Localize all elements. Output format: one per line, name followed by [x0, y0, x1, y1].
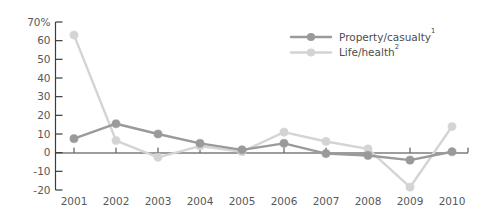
- y-tick-label: 60: [37, 34, 50, 46]
- y-tick-label: 0: [44, 146, 51, 158]
- legend-label: Life/health2: [339, 43, 399, 58]
- data-point: [280, 139, 288, 147]
- data-point: [322, 150, 330, 158]
- x-tick-label: 2003: [145, 195, 172, 207]
- data-point: [196, 139, 204, 147]
- y-tick-label: 10: [37, 128, 50, 140]
- data-point: [70, 31, 78, 39]
- y-tick-label: 40: [37, 72, 50, 84]
- data-point: [112, 120, 120, 128]
- y-tick-label: 30: [37, 90, 50, 102]
- x-tick-label: 2010: [439, 195, 466, 207]
- x-tick-label: 2002: [103, 195, 130, 207]
- data-point: [448, 122, 456, 130]
- chart-svg: 70%6050403020100-10-20 20012002200320042…: [0, 0, 492, 218]
- data-point: [280, 128, 288, 136]
- series-life-health: [70, 31, 456, 191]
- legend-marker: [307, 48, 315, 56]
- x-tick-label: 2005: [229, 195, 256, 207]
- legend-label: Property/casualty1: [339, 27, 435, 42]
- x-tick-labels: 2001200220032004200520062007200820092010: [61, 195, 466, 207]
- data-point: [406, 156, 414, 164]
- data-point: [406, 183, 414, 191]
- data-point: [70, 135, 78, 143]
- chart-legend: Property/casualty1Life/health2: [291, 27, 435, 58]
- series-line-life-health: [74, 35, 452, 187]
- y-tick-label: -20: [33, 184, 50, 196]
- data-point: [238, 146, 246, 154]
- y-tick-marks: [56, 22, 63, 190]
- x-tick-label: 2009: [397, 195, 424, 207]
- y-tick-label: -10: [33, 165, 50, 177]
- y-tick-label: 70%: [27, 16, 50, 28]
- y-tick-label: 20: [37, 109, 50, 121]
- x-tick-label: 2006: [271, 195, 298, 207]
- data-point: [364, 151, 372, 159]
- data-point: [322, 137, 330, 145]
- data-point: [112, 136, 120, 144]
- x-tick-label: 2007: [313, 195, 340, 207]
- line-chart: 70%6050403020100-10-20 20012002200320042…: [0, 0, 492, 218]
- x-tick-label: 2004: [187, 195, 214, 207]
- data-point: [154, 153, 162, 161]
- data-point: [154, 130, 162, 138]
- data-point: [448, 148, 456, 156]
- x-tick-label: 2001: [61, 195, 88, 207]
- y-tick-label: 50: [37, 53, 50, 65]
- y-tick-labels: 70%6050403020100-10-20: [27, 16, 50, 196]
- legend-marker: [307, 33, 315, 41]
- x-tick-label: 2008: [355, 195, 382, 207]
